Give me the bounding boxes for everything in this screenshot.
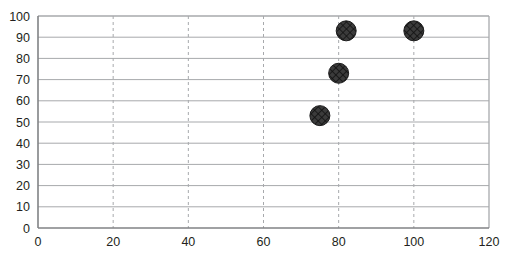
x-axis-tick-label: 60 — [257, 235, 271, 249]
x-axis-tick-label: 0 — [35, 235, 42, 249]
y-axis-tick-label: 80 — [16, 52, 30, 66]
data-point[interactable]: Series 1: (100, 93) — [404, 21, 424, 41]
data-point-marker[interactable] — [329, 63, 349, 83]
x-axis-tick-label: 40 — [181, 235, 195, 249]
y-axis-tick-label: 20 — [16, 179, 30, 193]
data-point[interactable]: Series 1: (75, 53) — [310, 106, 330, 126]
data-point-marker[interactable] — [336, 21, 356, 41]
y-axis-tick-label: 50 — [16, 116, 30, 130]
data-point-marker[interactable] — [310, 106, 330, 126]
y-axis-tick-label: 100 — [9, 10, 30, 24]
data-point[interactable]: Series 1: (82, 93) — [336, 21, 356, 41]
y-axis-tick-label: 90 — [16, 31, 30, 45]
y-axis-tick-label: 0 — [23, 222, 30, 236]
data-point-marker[interactable] — [404, 21, 424, 41]
x-axis-tick-label: 20 — [106, 235, 120, 249]
x-axis-tick-label: 100 — [403, 235, 424, 249]
y-axis-tick-label: 70 — [16, 73, 30, 87]
y-axis-tick-label: 40 — [16, 137, 30, 151]
y-axis-tick-label: 60 — [16, 94, 30, 108]
y-axis-tick-label: 10 — [16, 200, 30, 214]
y-axis-tick-label: 30 — [16, 158, 30, 172]
x-axis-tick-label: 80 — [332, 235, 346, 249]
data-point[interactable]: Series 1: (80, 73) — [329, 63, 349, 83]
scatter-chart: 0102030405060708090100 020406080100120 S… — [0, 0, 508, 261]
chart-canvas: 0102030405060708090100 020406080100120 S… — [0, 0, 508, 261]
x-axis-tick-label: 120 — [479, 235, 500, 249]
